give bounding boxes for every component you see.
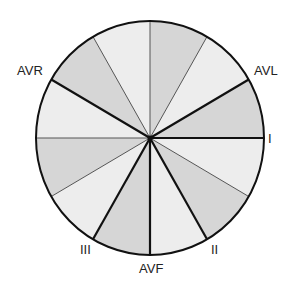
hexaxial-diagram [0,0,293,283]
lead-label-avl: AVL [254,64,278,77]
lead-label-avf: AVF [139,262,163,275]
center-dot [148,136,153,141]
lead-label-ii: II [211,243,218,256]
lead-label-avr: AVR [17,64,43,77]
lead-label-iii: III [80,243,91,256]
lead-label-i: I [268,132,272,145]
